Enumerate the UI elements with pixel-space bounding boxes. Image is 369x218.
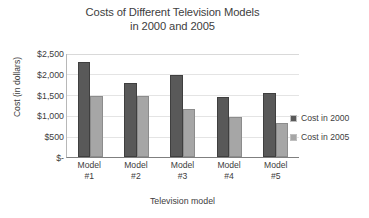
bar-series-1 [90, 96, 103, 157]
legend-label: Cost in 2000 [301, 113, 349, 123]
bar-series-1 [229, 117, 242, 156]
legend-swatch-icon [290, 115, 297, 122]
legend-item: Cost in 2005 [290, 132, 369, 142]
x-tick-line-2: #3 [162, 171, 204, 182]
x-axis-title: Television model [66, 196, 299, 206]
plot-area [66, 54, 299, 158]
chart-title-line-2: in 2000 and 2005 [40, 20, 305, 34]
bar-series-0 [170, 75, 183, 156]
bar-group [69, 54, 111, 157]
x-tick-label: Model #4 [208, 160, 250, 188]
bars-layer [67, 54, 299, 157]
x-tick-line-2: #4 [208, 171, 250, 182]
x-tick-line-1: Model [208, 160, 250, 171]
bar-series-1 [183, 109, 196, 156]
x-axis-tick-labels: Model #1 Model #2 Model #3 Model #4 Mode… [66, 160, 299, 188]
x-tick-label: Model #1 [68, 160, 110, 188]
x-tick-label: Model #5 [255, 160, 297, 188]
y-axis-title: Cost (in dollars) [12, 42, 22, 132]
x-tick-line-1: Model [162, 160, 204, 171]
y-tick-label: $1,500 [22, 91, 64, 101]
x-tick-label: Model #3 [162, 160, 204, 188]
y-tick-label: $- [22, 153, 64, 163]
y-tick-label: $2,000 [22, 70, 64, 80]
bar-series-0 [78, 62, 91, 157]
bar-group [208, 54, 250, 157]
bar-chart: Costs of Different Television Models in … [0, 0, 369, 218]
x-tick-line-2: #5 [255, 171, 297, 182]
bar-series-1 [137, 96, 150, 157]
bar-series-0 [124, 83, 137, 156]
bar-series-1 [276, 123, 289, 157]
legend-swatch-icon [290, 134, 297, 141]
bar-series-0 [217, 97, 230, 157]
y-tick-label: $1,000 [22, 111, 64, 121]
bar-series-0 [263, 93, 276, 156]
y-axis-tick-labels: $2,500 $2,000 $1,500 $1,000 $500 $- [22, 48, 64, 164]
x-tick-line-2: #1 [68, 171, 110, 182]
bar-group [116, 54, 158, 157]
chart-title: Costs of Different Television Models in … [40, 6, 305, 33]
legend-item: Cost in 2000 [290, 113, 369, 123]
x-tick-label: Model #2 [115, 160, 157, 188]
chart-title-line-1: Costs of Different Television Models [40, 6, 305, 20]
x-tick-line-1: Model [68, 160, 110, 171]
x-tick-line-1: Model [115, 160, 157, 171]
legend-label: Cost in 2005 [301, 132, 349, 142]
y-tick-label: $500 [22, 132, 64, 142]
chart-legend: Cost in 2000 Cost in 2005 [290, 113, 369, 151]
y-tick-label: $2,500 [22, 49, 64, 59]
x-tick-line-2: #2 [115, 171, 157, 182]
bar-group [162, 54, 204, 157]
x-tick-line-1: Model [255, 160, 297, 171]
